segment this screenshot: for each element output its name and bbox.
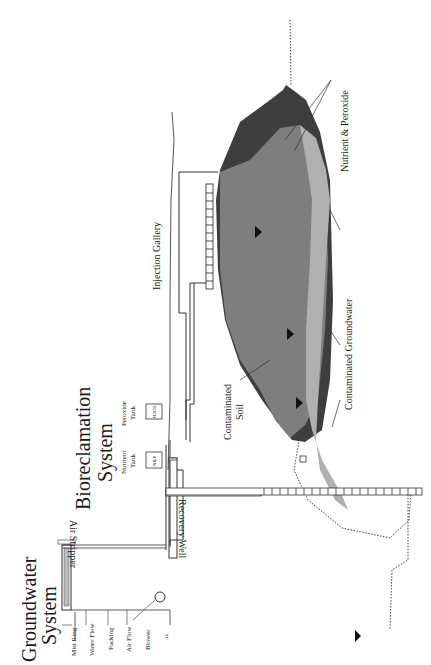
recovery-well-casing <box>166 488 422 495</box>
injection-gallery-screen <box>206 184 213 289</box>
water-table-marker-icon <box>355 630 361 642</box>
label-air-flow: Air Flow <box>125 626 133 652</box>
recovery-well <box>166 398 261 496</box>
label-blower: Blower <box>144 629 152 650</box>
blower-icon <box>155 592 165 602</box>
label-recovery-well: Recovery Well <box>177 499 188 558</box>
label-mist-ring: Mist Ring <box>70 627 78 656</box>
label-h2o2: H2O2 <box>152 405 157 418</box>
label-air: Air <box>164 633 169 640</box>
svg-text:System: System <box>38 586 61 645</box>
bioreclamation-system-title: Bioreclamation System <box>72 387 117 510</box>
label-nutrient-peroxide: Nutrient & Peroxide <box>339 90 350 172</box>
label-contaminated-groundwater: Contaminated Groundwater <box>343 298 354 410</box>
label-np: N&P <box>152 456 157 467</box>
label-air-stripper: Air Stripper <box>68 520 79 569</box>
label-nutrient-tank-1: Nutrient <box>120 451 128 474</box>
svg-text:System: System <box>94 423 117 482</box>
label-injection-gallery: Injection Gallery <box>151 222 162 290</box>
label-packing: Packing <box>107 627 115 650</box>
label-nutrient-tank-2: Tank <box>129 454 137 468</box>
label-water-flow: Water Flow <box>88 622 96 656</box>
groundwater-system-title: Groundwater System <box>18 556 61 662</box>
label-peroxide-tank-2: Tank <box>129 406 137 420</box>
bioremediation-diagram: Groundwater System Bioreclamation System… <box>0 0 431 665</box>
svg-text:Groundwater: Groundwater <box>18 556 40 662</box>
stripper-leader-lines <box>62 600 155 625</box>
svg-text:Bioreclamation: Bioreclamation <box>72 387 94 510</box>
label-peroxide-tank-1: Peroxide <box>120 401 128 426</box>
label-contaminated-soil-1: Contaminated <box>222 384 233 440</box>
label-contaminated-soil-2: Soil <box>234 404 245 420</box>
recovery-well-screen <box>169 456 306 462</box>
